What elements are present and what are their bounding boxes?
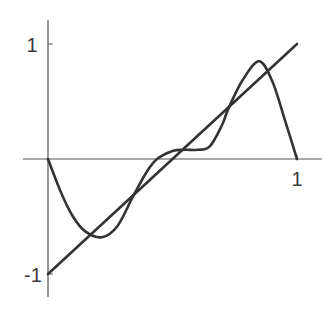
y-tick-label-neg1: -1 xyxy=(24,264,42,286)
plot-area: 1 -1 1 xyxy=(0,0,335,309)
y-tick-label-1: 1 xyxy=(26,34,37,56)
x-tick-label-1: 1 xyxy=(291,168,302,190)
curve-series xyxy=(48,61,297,237)
